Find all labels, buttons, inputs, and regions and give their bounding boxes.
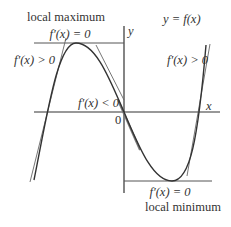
local-min-title: local minimum [145,200,221,214]
local-max-derivative-label: f′(x) = 0 [49,27,91,41]
increasing-left-label: f′(x) > 0 [14,53,56,67]
tangent-decreasing-upper [96,45,124,100]
decreasing-label: f′(x) < 0 [78,96,120,110]
local-max-title: local maximum [27,10,105,24]
x-axis-label: x [205,99,212,113]
function-title: y = f(x) [161,12,201,26]
y-axis-label: y [126,24,134,38]
origin-label: 0 [115,113,121,127]
increasing-right-label: f′(x) > 0 [167,53,209,67]
local-min-derivative-label: f′(x) = 0 [149,185,191,199]
cubic-function-diagram: local maximum f′(x) = 0 f′(x) > 0 f′(x) … [0,0,231,227]
